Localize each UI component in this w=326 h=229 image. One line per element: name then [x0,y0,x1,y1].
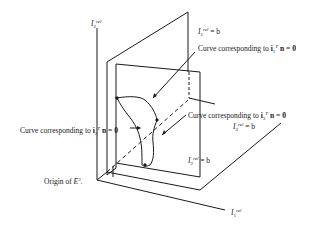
curve1-label: Curve corresponding to i1T n = 0 [198,42,296,56]
axis-i1 [97,180,225,210]
dashed-diagonal [107,100,188,172]
plane-i1-label: I1rel = b [198,25,220,39]
curve2-label: Curve corresponding to i2T n = 0 [20,124,118,138]
origin-notch [97,172,107,180]
arrow-curve3 [162,115,186,135]
dashed-base [189,98,215,104]
intersection-curve [117,97,157,166]
axis-i2-label: I2rel [91,17,101,31]
plane-i3-label: I3rel = b [233,120,255,134]
plane-i2-label: I2rel = b [188,154,210,168]
axis-i1-label: I1rel [231,206,241,220]
plane-i1 [107,12,188,175]
origin-label: Origin of E3. [44,175,83,186]
